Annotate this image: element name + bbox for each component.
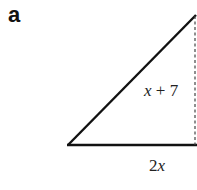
triangle-diagram: x + 7 2x (0, 0, 197, 190)
base-label: 2x (149, 156, 166, 175)
height-label: x + 7 (143, 81, 179, 100)
hypotenuse (68, 15, 196, 145)
